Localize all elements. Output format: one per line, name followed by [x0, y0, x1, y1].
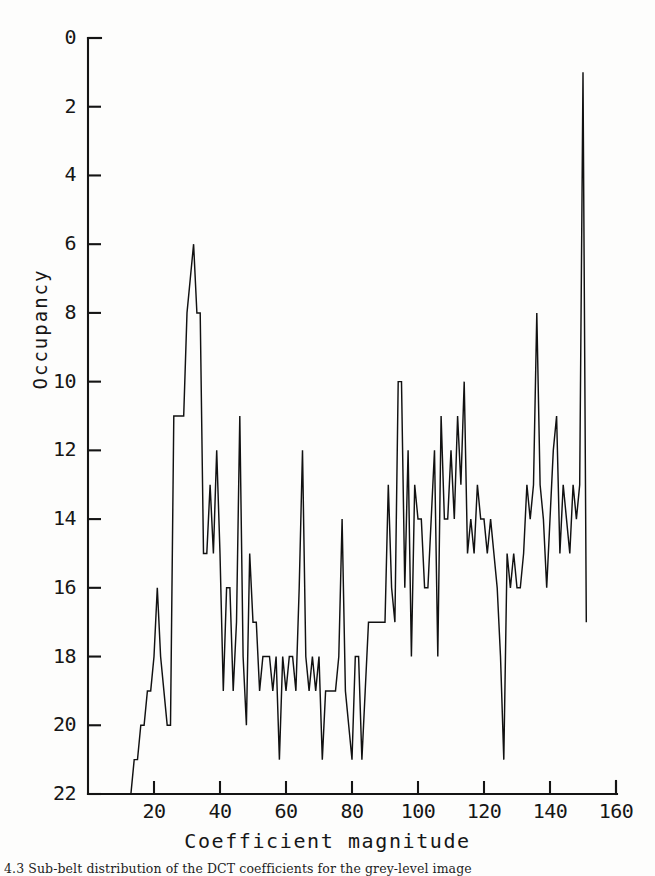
axes-group [88, 38, 617, 794]
y-tick-marks [88, 38, 101, 794]
data-series-line [131, 72, 586, 794]
y-tick-label-6: 16 [26, 577, 76, 597]
y-tick-label-16: 6 [26, 233, 76, 253]
y-axis-title: Occupancy [29, 259, 51, 399]
y-tick-label-18: 4 [26, 164, 76, 184]
y-tick-label-20: 2 [26, 96, 76, 116]
x-axis-title: Coefficient magnitude [0, 829, 655, 853]
figure-caption: 4.3 Sub-belt distribution of the DCT coe… [4, 861, 652, 876]
x-tick-label-140: 140 [520, 801, 580, 821]
x-tick-label-120: 120 [454, 801, 514, 821]
x-tick-label-80: 80 [322, 801, 382, 821]
x-tick-marks [154, 781, 616, 794]
x-tick-label-160: 160 [586, 801, 646, 821]
y-tick-label-10: 12 [26, 439, 76, 459]
y-tick-label-4: 18 [26, 646, 76, 666]
y-tick-label-8: 14 [26, 508, 76, 528]
y-tick-label-0: 22 [26, 783, 76, 803]
plot-canvas [0, 0, 655, 876]
x-tick-label-60: 60 [256, 801, 316, 821]
x-tick-label-20: 20 [124, 801, 184, 821]
y-tick-label-2: 20 [26, 714, 76, 734]
x-tick-label-40: 40 [190, 801, 250, 821]
figure-panel: 2220181614121086420 20406080100120140160… [0, 0, 655, 876]
x-tick-label-100: 100 [388, 801, 448, 821]
y-tick-label-22: 0 [26, 27, 76, 47]
